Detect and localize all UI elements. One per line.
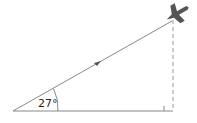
angle-label: 27° bbox=[38, 97, 58, 110]
arrowhead-icon bbox=[94, 61, 101, 66]
elevation-diagram: 27° bbox=[0, 0, 197, 123]
line-of-sight bbox=[13, 21, 172, 111]
